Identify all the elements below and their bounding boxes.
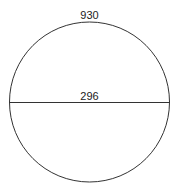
diameter-label: 296 [80,90,98,102]
circle-diagram: 930 296 [0,0,179,192]
circumference-label: 930 [80,9,98,21]
